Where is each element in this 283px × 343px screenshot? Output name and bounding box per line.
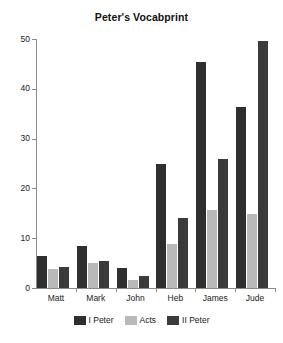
bar[interactable] [218,159,228,288]
legend-swatch-icon [167,316,179,325]
bar-group [236,39,269,288]
x-axis-label-john: John [116,294,156,303]
x-axis-tick [116,288,117,292]
chart-title: Peter's Vocabprint [0,11,283,23]
bar-group [156,39,189,288]
bar[interactable] [99,261,109,288]
bar[interactable] [236,107,246,288]
bar[interactable] [258,41,268,288]
legend-label: Acts [140,316,157,325]
bar[interactable] [207,210,217,288]
bar[interactable] [156,164,166,289]
x-axis-label-heb: Heb [156,294,196,303]
y-axis-tick [32,288,37,289]
y-axis-tick-label: 30 [0,134,30,143]
legend-item[interactable]: I Peter [74,316,114,325]
legend-swatch-icon [125,316,137,325]
bar[interactable] [88,263,98,288]
legend-label: II Peter [182,316,209,325]
legend-item[interactable]: Acts [125,316,157,325]
y-axis-tick-label: 50 [0,35,30,44]
bar[interactable] [247,214,257,288]
x-axis-tick [76,288,77,292]
bar-group [77,39,110,288]
y-axis-tick-label: 0 [0,284,30,293]
x-axis-tick [235,288,236,292]
legend-item[interactable]: II Peter [167,316,209,325]
bar[interactable] [37,256,47,288]
legend-swatch-icon [74,316,86,325]
bar[interactable] [59,267,69,288]
x-axis-tick [195,288,196,292]
bar[interactable] [77,246,87,288]
y-axis-tick-label: 20 [0,184,30,193]
x-axis-label-mark: Mark [76,294,116,303]
bar-group [196,39,229,288]
bar[interactable] [117,268,127,288]
legend-label: I Peter [89,316,114,325]
chart-legend: I PeterActsII Peter [0,316,283,325]
x-axis-tick [275,288,276,292]
y-axis-tick-label: 10 [0,234,30,243]
x-axis-label-james: James [195,294,235,303]
bar[interactable] [196,62,206,288]
bar[interactable] [128,280,138,288]
x-axis-tick [156,288,157,292]
bar[interactable] [167,244,177,288]
x-axis-label-matt: Matt [36,294,76,303]
bar[interactable] [48,269,58,288]
bar[interactable] [139,276,149,288]
bar-group [37,39,70,288]
y-axis-tick-label: 40 [0,84,30,93]
x-axis-label-jude: Jude [235,294,275,303]
chart-figure: Peter's Vocabprint 01020304050 MattMarkJ… [0,0,283,343]
bar[interactable] [178,218,188,288]
bar-group [117,39,150,288]
